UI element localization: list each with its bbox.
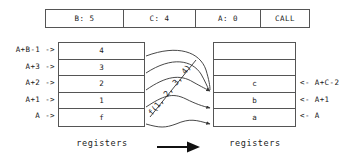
register-cell	[214, 43, 295, 60]
before-address-label: A+1 ->	[0, 92, 55, 109]
register-cell	[214, 60, 295, 77]
register-cell: a	[214, 109, 295, 126]
register-cell: 2	[59, 76, 144, 93]
call-bar-cell-a: A: 0	[196, 10, 261, 27]
after-address-label: <- A+1	[300, 92, 356, 109]
before-address-label: A+3 ->	[0, 59, 55, 76]
registers-before-stack: 4 3 2 1 f	[58, 42, 145, 127]
before-address-labels: A+B-1 -> A+3 -> A+2 -> A+1 -> A ->	[0, 42, 55, 125]
call-label-rule	[150, 60, 196, 117]
registers-before-caption: registers	[52, 138, 152, 148]
right-arrow-icon	[155, 140, 203, 154]
arrow-f-to-a	[146, 120, 210, 127]
register-cell: b	[214, 93, 295, 110]
registers-after-stack: c b a	[213, 42, 296, 127]
register-cell: f	[59, 109, 144, 126]
call-frame-bar: B: 5 C: 4 A: 0 CALL	[45, 9, 310, 28]
register-cell: 3	[59, 60, 144, 77]
after-address-labels: <- A+C-2 <- A+1 <- A	[300, 42, 356, 125]
arrow-3-mapping	[146, 62, 209, 90]
register-cell: 4	[59, 43, 144, 60]
call-bar-cell-b: B: 5	[46, 10, 124, 27]
after-address-label: <- A	[300, 108, 356, 125]
arrow-1-to-b	[146, 96, 210, 108]
before-address-label: A+B-1 ->	[0, 42, 55, 59]
before-address-label: A+2 ->	[0, 75, 55, 92]
after-address-label: <- A+C-2	[300, 75, 356, 92]
call-label: f(1, 2, 3, 4)	[147, 63, 193, 117]
arrow-4-mapping	[146, 50, 210, 90]
register-cell: 1	[59, 93, 144, 110]
arrow-2-to-c	[146, 77, 210, 91]
call-bar-cell-call: CALL	[261, 10, 309, 27]
call-bar-cell-c: C: 4	[124, 10, 196, 27]
registers-after-caption: registers	[205, 138, 305, 148]
register-cell: c	[214, 76, 295, 93]
before-address-label: A ->	[0, 108, 55, 125]
